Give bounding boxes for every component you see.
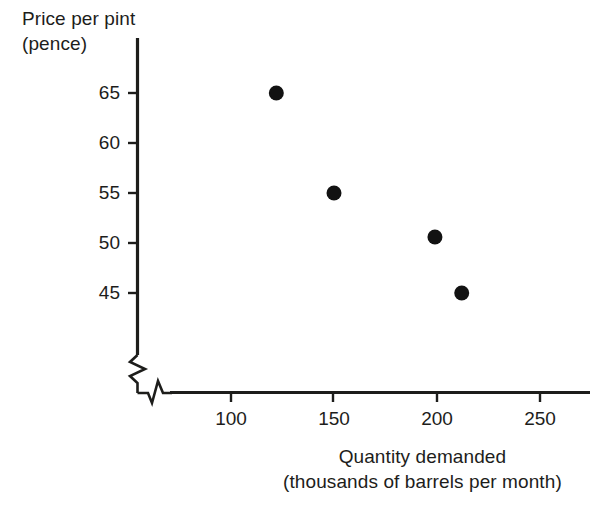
y-tick-label-60: 60	[99, 132, 120, 154]
y-axis-title-line1: Price per pint	[22, 6, 135, 31]
y-tick-label-55: 55	[99, 182, 120, 204]
x-axis-break-icon	[138, 381, 173, 403]
y-tick-label-65: 65	[99, 82, 120, 104]
data-points-group	[269, 86, 469, 301]
plot-area	[0, 0, 616, 514]
y-tick-label-50: 50	[99, 232, 120, 254]
y-axis-ticks	[128, 93, 137, 293]
scatter-chart: Price per pint (pence) Quantity demanded…	[0, 0, 616, 514]
data-point	[327, 186, 342, 201]
x-tick-label-250: 250	[524, 408, 556, 430]
x-tick-label-200: 200	[421, 408, 453, 430]
y-axis-title-line2: (pence)	[22, 31, 135, 56]
x-axis-title-line1: Quantity demanded	[283, 444, 562, 469]
data-point	[427, 230, 442, 245]
data-point	[269, 86, 284, 101]
x-tick-label-150: 150	[318, 408, 350, 430]
y-axis-title: Price per pint (pence)	[22, 6, 135, 56]
x-tick-label-100: 100	[215, 408, 247, 430]
data-point	[454, 286, 469, 301]
y-axis-break-icon	[130, 355, 145, 393]
x-axis-title: Quantity demanded (thousands of barrels …	[283, 444, 562, 494]
x-axis-title-line2: (thousands of barrels per month)	[283, 469, 562, 494]
y-tick-label-45: 45	[99, 282, 120, 304]
